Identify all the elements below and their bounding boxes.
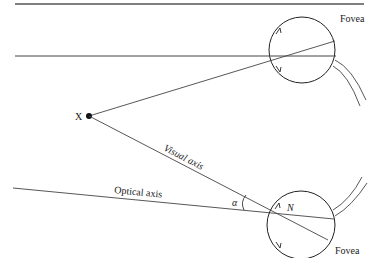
- bottom-eyeball: [267, 191, 335, 258]
- top-optic-nerve-outer: [335, 60, 366, 100]
- bottom-lens-arrow-lower: [276, 242, 281, 248]
- fixation-point-label: X: [75, 111, 83, 122]
- bottom-fovea-label: Fovea: [335, 245, 360, 256]
- visual-axis-line: [89, 116, 328, 240]
- nodal-point-label: N: [286, 202, 295, 213]
- top-eye: [269, 17, 366, 106]
- alpha-angle-label: α: [232, 197, 238, 208]
- diagram-canvas: Fovea X Visual axis Optical axis α N Fov…: [0, 0, 376, 258]
- optical-axis-line: [13, 188, 334, 219]
- top-eyeball: [269, 17, 335, 83]
- top-optic-nerve-inner: [333, 66, 360, 106]
- top-fovea-label: Fovea: [340, 13, 365, 24]
- bottom-optic-nerve-inner: [335, 183, 367, 216]
- optical-axis-label: Optical axis: [114, 184, 163, 200]
- bottom-lens-arrow-upper: [275, 203, 280, 209]
- bottom-optic-nerve-outer: [333, 177, 362, 210]
- x-to-top-fovea-line: [89, 41, 335, 116]
